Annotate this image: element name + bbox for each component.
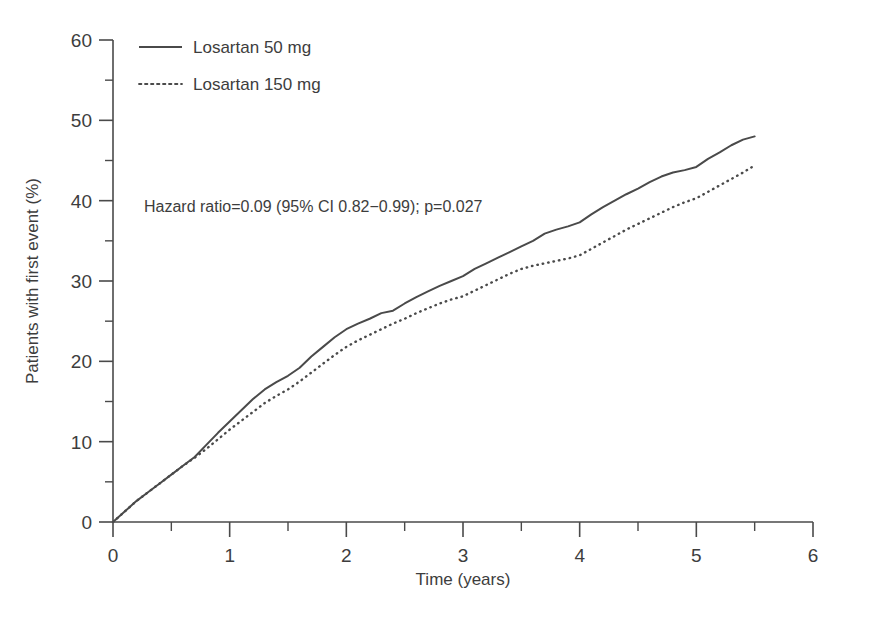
y-tick-label: 20	[71, 351, 92, 372]
kaplan-meier-chart: 0102030405060 0123456 Time (years) Patie…	[0, 0, 869, 624]
y-axis-ticks	[99, 40, 113, 522]
y-tick-label: 40	[71, 191, 92, 212]
x-axis-ticks	[113, 522, 813, 537]
series-line-2	[113, 165, 755, 522]
legend-label-losartan-50: Losartan 50 mg	[193, 38, 311, 57]
legend: Losartan 50 mg Losartan 150 mg	[139, 38, 321, 94]
y-axis-title: Patients with first event (%)	[23, 178, 42, 384]
y-tick-label: 30	[71, 271, 92, 292]
x-axis-tick-labels: 0123456	[108, 545, 819, 566]
y-tick-label: 0	[81, 512, 92, 533]
y-tick-label: 50	[71, 110, 92, 131]
x-tick-label: 3	[458, 545, 469, 566]
x-tick-label: 6	[808, 545, 819, 566]
data-series-layer	[113, 136, 755, 522]
x-tick-label: 5	[691, 545, 702, 566]
figure-container: 0102030405060 0123456 Time (years) Patie…	[0, 0, 869, 624]
hazard-ratio-annotation: Hazard ratio=0.09 (95% CI 0.82−0.99); p=…	[144, 198, 483, 215]
y-tick-label: 10	[71, 432, 92, 453]
x-tick-label: 0	[108, 545, 119, 566]
axis-lines	[113, 40, 813, 522]
series-line-1	[113, 136, 755, 522]
x-tick-label: 1	[224, 545, 235, 566]
x-tick-label: 2	[341, 545, 352, 566]
x-tick-label: 4	[574, 545, 585, 566]
y-axis-tick-labels: 0102030405060	[71, 30, 92, 533]
x-axis-title: Time (years)	[416, 570, 511, 589]
legend-label-losartan-150: Losartan 150 mg	[193, 75, 321, 94]
y-tick-label: 60	[71, 30, 92, 51]
